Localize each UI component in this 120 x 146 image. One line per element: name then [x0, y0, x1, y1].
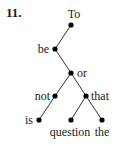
node-label-not: not [35, 89, 51, 103]
node-dot-is [36, 117, 41, 122]
node-label-or: or [77, 66, 87, 80]
node-dot-question [68, 117, 73, 122]
node-dot-that [83, 93, 88, 98]
node-dot-or [68, 70, 73, 75]
node-label-that: that [91, 89, 110, 103]
edge-be-or [55, 49, 71, 73]
node-label-question: question [50, 125, 91, 139]
node-label-the: the [95, 125, 110, 139]
node-label-be: be [38, 42, 49, 56]
edge-or-not [55, 73, 71, 96]
node-dot-the [99, 117, 104, 122]
node-dot-to [68, 22, 73, 27]
binary-tree-diagram: Tobeornotthatisquestionthe [0, 0, 120, 146]
node-dot-not [52, 93, 57, 98]
tree-nodes [36, 22, 104, 122]
node-label-is: is [25, 113, 33, 127]
node-label-to: To [68, 7, 81, 21]
node-dot-be [52, 46, 57, 51]
edge-To-be [55, 25, 71, 49]
edge-that-question [71, 96, 86, 120]
